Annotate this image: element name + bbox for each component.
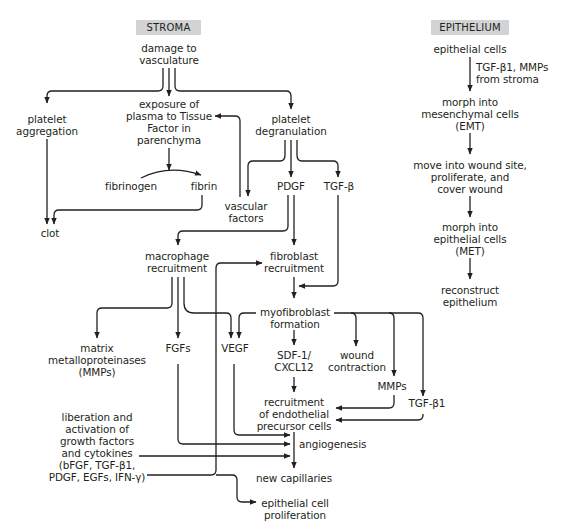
node-pdgf: PDGF: [277, 180, 305, 192]
node-fibrin: fibrin: [191, 180, 217, 192]
node-platelet-aggregation: platelet aggregation: [16, 113, 78, 137]
node-macrophage-recruitment: macrophage recruitment: [145, 250, 209, 274]
label-tgf-mmps-from-stroma: TGF-β1, MMPs from stroma: [476, 61, 548, 85]
node-reconstruct-epithelium: reconstruct epithelium: [441, 284, 499, 308]
node-damage-to-vasculature: damage to vasculature: [139, 42, 198, 66]
node-exposure-tissue-factor: exposure of plasma to Tissue Factor in p…: [126, 98, 212, 146]
node-epithelial-cell-proliferation: epithelial cell proliferation: [261, 497, 329, 521]
node-fgfs: FGFs: [165, 342, 190, 354]
node-tgf-beta1: TGF-β1: [409, 397, 446, 409]
node-tgf-beta: TGF-β: [324, 180, 354, 192]
node-platelet-degranulation: platelet degranulation: [255, 113, 326, 137]
node-matrix-metalloproteinases: matrix metalloproteinases (MMPs): [48, 342, 146, 378]
node-liberation-activation: liberation and activation of growth fact…: [49, 411, 145, 483]
node-mmps: MMPs: [377, 380, 406, 392]
node-sdf1-cxcl12: SDF-1/ CXCL12: [274, 349, 313, 373]
node-new-capillaries: new capillaries: [256, 472, 332, 484]
node-vascular-factors: vascular factors: [225, 200, 268, 224]
node-myofibroblast-formation: myofibroblast formation: [260, 306, 330, 330]
node-angiogenesis: angiogenesis: [299, 438, 366, 450]
node-emt: morph into mesenchymal cells (EMT): [421, 96, 519, 132]
node-recruitment-endothelial: recruitment of endothelial precursor cel…: [257, 396, 332, 432]
epithelium-header: EPITHELIUM: [431, 20, 509, 35]
node-clot: clot: [41, 227, 60, 239]
node-move-into-wound: move into wound site, proliferate, and c…: [413, 159, 526, 195]
node-fibroblast-recruitment: fibroblast recruitment: [264, 250, 324, 274]
node-met: morph into epithelial cells (MET): [434, 221, 507, 257]
node-wound-contraction: wound contraction: [328, 349, 386, 373]
node-fibrinogen: fibrinogen: [105, 180, 157, 192]
node-vegf: VEGF: [221, 342, 248, 354]
stroma-header: STROMA: [136, 20, 201, 35]
node-epithelial-cells: epithelial cells: [434, 43, 507, 55]
